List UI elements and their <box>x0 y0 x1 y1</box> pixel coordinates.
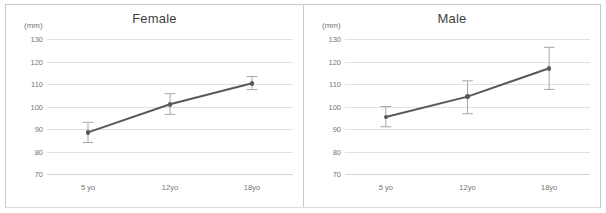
y-axis-tick-label: 100 <box>30 102 43 111</box>
y-axis-tick-label: 100 <box>328 102 341 111</box>
chart-panel-female: Female (mm) 1301201101009080705 yo12yo18… <box>6 5 303 207</box>
chart-title-female: Female <box>6 11 303 26</box>
data-series-layer <box>47 39 293 174</box>
plot-area-male: 1301201101009080705 yo12yo18yo <box>345 39 590 174</box>
y-axis-tick-label: 70 <box>35 170 43 179</box>
gridline-70 <box>345 174 590 175</box>
y-axis-tick-label: 70 <box>333 170 341 179</box>
y-axis-tick-label: 130 <box>328 35 341 44</box>
data-series-layer <box>345 39 590 174</box>
y-axis-unit-label-female: (mm) <box>24 21 43 30</box>
figure-container: Female (mm) 1301201101009080705 yo12yo18… <box>0 0 606 213</box>
y-axis-tick-label: 90 <box>333 125 341 134</box>
data-point-marker <box>86 130 91 135</box>
chart-title-male: Male <box>304 11 600 26</box>
x-axis-tick-label: 12yo <box>459 183 475 192</box>
x-axis-tick-label: 5 yo <box>379 183 393 192</box>
y-axis-tick-label: 130 <box>30 35 43 44</box>
chart-panel-male: Male (mm) 1301201101009080705 yo12yo18yo <box>303 5 600 207</box>
gridline-70 <box>47 174 293 175</box>
x-axis-tick-label: 5 yo <box>81 183 95 192</box>
y-axis-tick-label: 90 <box>35 125 43 134</box>
data-point-marker <box>465 94 470 99</box>
y-axis-tick-label: 110 <box>329 80 341 89</box>
x-axis-tick-label: 18yo <box>244 183 260 192</box>
figure-bottom-rule <box>6 207 600 208</box>
figure-frame: Female (mm) 1301201101009080705 yo12yo18… <box>5 4 601 208</box>
y-axis-tick-label: 110 <box>31 80 43 89</box>
x-axis-tick-label: 18yo <box>541 183 557 192</box>
data-point-marker <box>547 66 552 71</box>
data-point-marker <box>250 81 255 86</box>
y-axis-tick-label: 120 <box>328 57 341 66</box>
data-point-marker <box>168 102 173 107</box>
y-axis-unit-label-male: (mm) <box>322 21 341 30</box>
plot-area-female: 1301201101009080705 yo12yo18yo <box>47 39 293 174</box>
y-axis-tick-label: 80 <box>35 147 43 156</box>
y-axis-tick-label: 120 <box>30 57 43 66</box>
y-axis-tick-label: 80 <box>333 147 341 156</box>
x-axis-tick-label: 12yo <box>162 183 178 192</box>
